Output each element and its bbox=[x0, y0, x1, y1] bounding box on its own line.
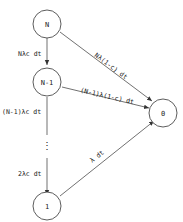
node-0: 0 bbox=[149, 99, 177, 127]
state-diagram: N N-1 ⋮ 1 0 Nλc dt (N-1)λc dt 2λc dt Nλ(… bbox=[0, 0, 183, 222]
edge-1-to-0 bbox=[60, 121, 154, 196]
edge-label-N-to-N-1: Nλc dt bbox=[18, 50, 42, 58]
ellipsis-dots: ⋮ bbox=[42, 140, 52, 151]
node-0-label: 0 bbox=[161, 110, 165, 118]
node-1: 1 bbox=[33, 192, 61, 220]
node-N: N bbox=[33, 10, 61, 38]
edge-label-1-to-0: λ dt bbox=[88, 149, 105, 165]
edge-label-N-1-to-dots: (N-1)λc dt bbox=[2, 108, 41, 116]
node-N-label: N bbox=[45, 21, 49, 29]
node-1-label: 1 bbox=[45, 203, 49, 211]
node-N-1: N-1 bbox=[33, 68, 61, 96]
edge-label-N-1-to-0: (N-1)λ(1-c) dt bbox=[80, 86, 135, 106]
edge-label-dots-to-1: 2λc dt bbox=[18, 170, 42, 178]
edge-label-N-to-0: Nλ(1-c) dt bbox=[93, 51, 129, 81]
node-N-1-label: N-1 bbox=[41, 79, 54, 87]
